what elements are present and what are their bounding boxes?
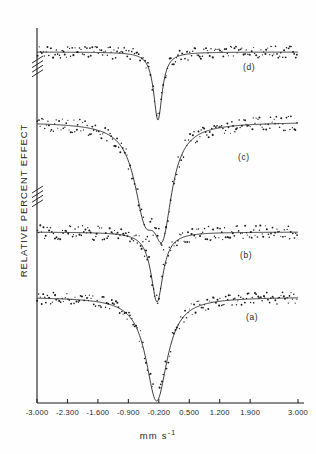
data-point: [238, 295, 240, 297]
data-point: [55, 299, 57, 301]
data-point: [277, 57, 279, 59]
data-point: [57, 53, 59, 55]
data-point: [283, 129, 285, 131]
data-point: [107, 55, 108, 56]
data-point: [247, 54, 248, 55]
data-point: [73, 234, 74, 235]
data-point: [193, 235, 195, 237]
data-point: [240, 127, 241, 128]
data-point: [290, 115, 292, 117]
data-point: [67, 46, 69, 48]
data-point: [288, 47, 290, 49]
data-point: [126, 56, 128, 58]
data-point: [279, 231, 280, 232]
data-point: [164, 233, 165, 234]
data-point: [231, 47, 232, 48]
data-point: [262, 236, 264, 238]
data-point: [159, 113, 161, 115]
data-point: [265, 49, 267, 51]
data-point: [46, 46, 48, 48]
data-point: [225, 296, 227, 298]
data-point: [161, 381, 163, 383]
data-point: [184, 139, 186, 141]
data-point: [48, 125, 50, 127]
data-point: [102, 54, 104, 56]
data-point: [112, 138, 114, 140]
data-point: [116, 51, 118, 53]
data-point: [129, 58, 131, 60]
data-point: [45, 302, 47, 304]
data-point: [98, 131, 100, 133]
data-point: [274, 299, 276, 301]
data-point: [82, 53, 83, 54]
data-point: [238, 49, 240, 51]
data-point: [53, 131, 54, 132]
data-point: [184, 54, 185, 55]
data-point: [62, 127, 64, 129]
data-point: [77, 226, 79, 228]
data-point: [242, 233, 243, 234]
data-point: [106, 302, 108, 304]
data-point: [156, 295, 158, 297]
data-point: [151, 218, 153, 220]
data-point: [177, 156, 178, 157]
data-point: [38, 293, 40, 295]
data-point: [132, 177, 134, 179]
data-point: [108, 47, 109, 48]
data-point: [175, 329, 177, 331]
data-point: [288, 225, 290, 227]
data-point: [47, 121, 48, 122]
data-point: [215, 49, 216, 50]
data-point: [289, 129, 290, 130]
data-point: [153, 85, 155, 87]
data-point: [48, 229, 50, 231]
data-point: [224, 304, 225, 305]
data-point: [96, 46, 98, 48]
data-point: [170, 351, 171, 352]
data-point: [287, 229, 288, 230]
data-point: [62, 298, 63, 299]
data-point: [142, 342, 144, 344]
data-point: [131, 318, 132, 319]
data-point: [293, 294, 294, 295]
data-point: [280, 236, 281, 237]
data-point: [54, 237, 56, 239]
data-point: [134, 53, 135, 54]
data-point: [205, 309, 206, 310]
data-point: [230, 133, 231, 134]
data-point: [244, 53, 246, 55]
data-point: [190, 140, 191, 141]
data-point: [181, 53, 183, 55]
data-point: [78, 234, 80, 236]
data-point: [166, 368, 168, 370]
data-point: [207, 308, 209, 310]
data-point: [257, 118, 259, 120]
data-point: [218, 305, 220, 307]
data-point: [70, 55, 71, 56]
data-point: [240, 296, 242, 298]
data-point: [125, 232, 127, 234]
data-point: [127, 319, 128, 320]
data-point: [191, 233, 193, 235]
data-point: [186, 241, 188, 243]
data-point: [255, 54, 257, 56]
data-point: [134, 183, 136, 185]
data-point: [54, 123, 56, 125]
data-point: [290, 292, 291, 293]
data-point: [193, 131, 195, 133]
data-point: [222, 239, 223, 240]
data-point: [214, 236, 216, 238]
data-point: [164, 76, 166, 78]
data-point: [267, 124, 269, 126]
data-point: [116, 302, 118, 304]
data-point: [186, 145, 187, 146]
x-tick-label-6: 1.200: [210, 408, 230, 417]
data-point: [99, 49, 100, 50]
data-point: [249, 236, 250, 237]
data-point: [62, 119, 63, 120]
x-tick-label-8: 3.000: [288, 408, 308, 417]
data-point: [205, 238, 207, 240]
data-point: [143, 57, 144, 58]
data-point: [70, 226, 72, 228]
data-point: [122, 147, 124, 149]
